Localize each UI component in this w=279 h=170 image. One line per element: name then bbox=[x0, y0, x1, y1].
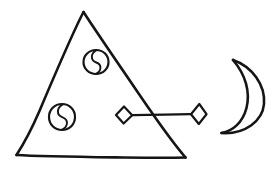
diamond-connector-line bbox=[133, 114, 191, 115]
sketch-canvas bbox=[0, 0, 279, 170]
paper-background bbox=[0, 0, 279, 170]
sketch-drawing bbox=[0, 0, 279, 170]
